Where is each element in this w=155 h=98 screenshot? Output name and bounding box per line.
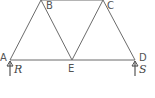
node-label-c: C bbox=[107, 0, 114, 11]
reaction-arrow-r bbox=[7, 61, 13, 76]
reaction-label-r: R bbox=[13, 63, 22, 76]
member-e-c bbox=[72, 0, 103, 60]
truss-diagram: A B C D E R S bbox=[0, 0, 155, 98]
reaction-label-s: S bbox=[139, 63, 147, 76]
node-label-e: E bbox=[68, 63, 74, 74]
member-a-b bbox=[10, 0, 41, 60]
node-label-a: A bbox=[0, 52, 7, 63]
reaction-arrow-s bbox=[132, 61, 138, 76]
node-label-d: D bbox=[139, 52, 147, 63]
node-label-b: B bbox=[46, 0, 53, 11]
